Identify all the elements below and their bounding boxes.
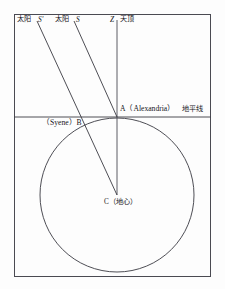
sun-ray-to-center <box>37 21 117 195</box>
label-sun-ray-right: S <box>76 16 80 23</box>
label-point-center: C（地心） <box>104 199 137 206</box>
eratosthenes-diagram: 太阳 S' 太阳 S Z 天顶 A（Alexandria） 地平线 （Syene… <box>0 0 225 289</box>
label-point-syene: （Syene）B <box>42 119 82 127</box>
diagram-canvas <box>0 0 225 289</box>
label-sun-right: 太阳 <box>55 16 69 23</box>
label-sun-left: 太阳 <box>17 16 31 23</box>
label-zenith-letter: Z <box>110 16 114 23</box>
label-point-alexandria: A（Alexandria） <box>120 105 175 113</box>
label-horizon: 地平线 <box>182 106 203 113</box>
label-sun-ray-left: S' <box>38 16 43 23</box>
sun-ray-to-alexandria <box>74 21 117 117</box>
label-zenith-word: 天顶 <box>120 16 134 23</box>
